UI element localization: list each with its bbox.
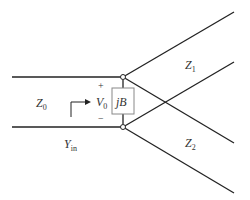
z2-line-bottom	[123, 127, 234, 193]
yin-label: Yin	[64, 138, 77, 155]
z1-line-bottom	[123, 62, 234, 127]
node-bottom	[121, 125, 126, 130]
z2-label: Z2	[185, 137, 196, 154]
v0-label: V0	[96, 96, 107, 113]
minus-label: −	[98, 113, 104, 125]
node-top	[121, 75, 126, 80]
z1-label: Z1	[185, 59, 196, 76]
z0-label: Z0	[36, 97, 47, 114]
t-junction-diagram: Z0 V0 jB + − Yin Z1 Z2	[0, 0, 250, 200]
z2-line-top	[123, 77, 234, 143]
arrow-icon	[85, 99, 91, 105]
jb-label: jB	[116, 96, 127, 108]
z1-line-top	[123, 12, 234, 77]
plus-label: +	[98, 80, 104, 92]
